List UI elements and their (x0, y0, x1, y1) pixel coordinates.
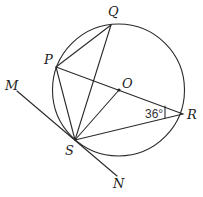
label-n: N (112, 176, 125, 191)
label-q: Q (108, 4, 119, 19)
label-r: R (186, 107, 197, 122)
segment-os (75, 90, 119, 140)
label-s: S (65, 143, 74, 158)
segment-pq (56, 25, 111, 67)
label-o: O (122, 76, 133, 91)
circle-geometry-diagram: 36° Q P O R S M N (0, 0, 203, 197)
label-m: M (4, 78, 19, 93)
segment-sr (75, 114, 183, 140)
center-point-o (117, 88, 120, 91)
segment-qs (75, 25, 111, 140)
label-p: P (43, 52, 53, 67)
angle-label-r: 36° (145, 107, 163, 121)
